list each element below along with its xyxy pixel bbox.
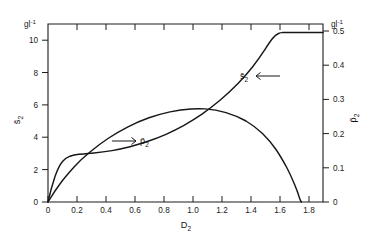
y-left-tick-labels: 0 2 4 6 8 10 <box>29 36 39 207</box>
p2-label-sub: 2 <box>145 141 149 148</box>
right-arrow-icon <box>112 138 136 145</box>
s2-label-sub: 2 <box>245 76 249 83</box>
y-right-tick-label: 0.2 <box>333 130 345 139</box>
y-right-tick-label: 0.1 <box>333 164 345 173</box>
y-left-axis-title: s̄2 <box>12 116 24 125</box>
svg-text:p̄2: p̄2 <box>140 136 149 148</box>
plot-frame <box>48 24 323 202</box>
y-right-tick-label: 0.3 <box>333 95 345 104</box>
x-tick-label: 1.6 <box>274 206 286 215</box>
x-tick-label: 1.4 <box>245 206 257 215</box>
figure-container: 0 0.2 0.4 0.6 0.8 1.0 1.2 1.4 1.6 1.8 0 … <box>0 0 376 241</box>
curve-s2 <box>48 32 323 202</box>
y-right-tick-label: 0.4 <box>333 61 345 70</box>
x-tick-labels: 0 0.2 0.4 0.6 0.8 1.0 1.2 1.4 1.6 1.8 <box>46 206 315 215</box>
svg-text:p̄2: p̄2 <box>348 113 360 122</box>
y-left-tick-label: 4 <box>33 133 38 142</box>
svg-text:s̄2: s̄2 <box>12 116 24 125</box>
y-right-axis-title: p̄2 <box>348 113 360 122</box>
x-title-sub: 2 <box>187 225 191 232</box>
y-left-tick-label: 2 <box>33 166 38 175</box>
left-arrow-icon <box>256 73 280 80</box>
x-tick-label: 1.2 <box>216 206 228 215</box>
x-tick-label: 0.8 <box>158 206 170 215</box>
y-left-title-sub: 2 <box>17 116 24 120</box>
annotation-s2: s̄2 <box>240 71 280 83</box>
chart-svg: 0 0.2 0.4 0.6 0.8 1.0 1.2 1.4 1.6 1.8 0 … <box>0 0 376 241</box>
y-right-axis-ticks <box>323 31 329 202</box>
x-tick-label: 0.4 <box>100 206 112 215</box>
y-left-tick-label: 0 <box>33 198 38 207</box>
x-tick-label: 0 <box>46 206 51 215</box>
y-right-tick-label: 0 <box>333 198 338 207</box>
x-tick-label: 0.2 <box>71 206 83 215</box>
y-left-tick-label: 10 <box>29 36 39 45</box>
x-axis-top-ticks <box>77 24 309 30</box>
x-axis-ticks <box>48 196 309 202</box>
svg-text:gl-1: gl-1 <box>24 18 36 29</box>
y-right-unit-sup: -1 <box>337 18 343 25</box>
x-tick-label: 1.0 <box>187 206 199 215</box>
x-tick-label: 1.8 <box>303 206 315 215</box>
curve-p2 <box>48 109 301 202</box>
x-tick-label: 0.6 <box>129 206 141 215</box>
y-right-title-sub: 2 <box>353 113 360 117</box>
x-axis-title: D2 <box>181 220 192 232</box>
y-left-unit-sup: -1 <box>30 18 36 25</box>
y-right-tick-labels: 0 0.1 0.2 0.3 0.4 0.5 <box>333 27 345 207</box>
y-left-unit-label: gl-1 <box>24 18 36 29</box>
y-left-tick-label: 6 <box>33 101 38 110</box>
y-left-tick-label: 8 <box>33 69 38 78</box>
y-left-axis-ticks <box>42 40 48 202</box>
svg-text:D2: D2 <box>181 220 192 232</box>
